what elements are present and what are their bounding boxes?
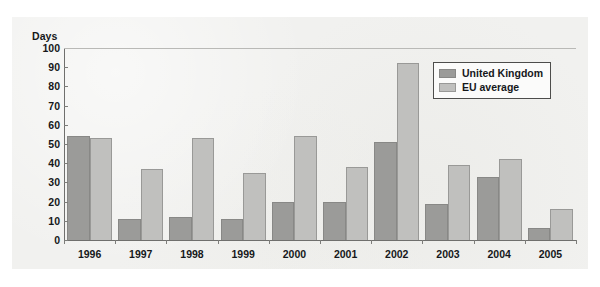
bar-uk-2003[interactable] <box>425 204 448 240</box>
x-axis-tickmark-origin <box>64 240 65 244</box>
y-axis-tick-100: 100 <box>42 42 60 54</box>
bar-eu-2004[interactable] <box>499 159 522 240</box>
x-axis-tickmark-2001 <box>371 240 372 244</box>
y-axis-tick-10: 10 <box>48 215 60 227</box>
y-axis-tickmark-80 <box>64 86 68 87</box>
y-axis-tickmark-70 <box>64 106 68 107</box>
x-axis-tickmark-1996 <box>115 240 116 244</box>
x-axis-tickmark-2002 <box>422 240 423 244</box>
bar-group-1999 <box>218 48 269 240</box>
bar-eu-2000[interactable] <box>294 136 317 240</box>
legend-label-eu-average: EU average <box>462 81 519 93</box>
x-axis-tick-2002: 2002 <box>371 248 422 260</box>
chart-legend: United Kingdom EU average <box>433 62 551 99</box>
y-axis-tick-80: 80 <box>48 80 60 92</box>
bar-eu-1996[interactable] <box>90 138 113 240</box>
y-axis-tick-60: 60 <box>48 119 60 131</box>
bar-eu-1997[interactable] <box>141 169 164 240</box>
y-axis-tickmark-40 <box>64 163 68 164</box>
y-axis-tickmark-20 <box>64 202 68 203</box>
y-axis-tick-70: 70 <box>48 100 60 112</box>
bar-group-1998 <box>166 48 217 240</box>
y-axis-tickmark-10 <box>64 221 68 222</box>
bar-group-2000 <box>269 48 320 240</box>
y-axis-tickmark-50 <box>64 144 68 145</box>
legend-item-eu-average[interactable]: EU average <box>439 80 543 94</box>
x-axis-tick-2005: 2005 <box>525 248 576 260</box>
y-axis-tickmark-90 <box>64 67 68 68</box>
y-axis-tick-40: 40 <box>48 157 60 169</box>
x-axis-tick-2004: 2004 <box>474 248 525 260</box>
y-axis-tick-30: 30 <box>48 176 60 188</box>
x-axis-tick-1997: 1997 <box>115 248 166 260</box>
bar-group-2001 <box>320 48 371 240</box>
bar-eu-2003[interactable] <box>448 165 471 240</box>
x-axis-tick-1999: 1999 <box>218 248 269 260</box>
bar-group-1996 <box>64 48 115 240</box>
x-axis-tickmark-1998 <box>218 240 219 244</box>
x-axis-tick-2003: 2003 <box>422 248 473 260</box>
bar-eu-2002[interactable] <box>397 63 420 240</box>
y-axis-tick-labels: 0102030405060708090100 <box>12 17 60 269</box>
bar-uk-2005[interactable] <box>528 228 551 240</box>
x-axis-tickmark-2000 <box>320 240 321 244</box>
bar-uk-1998[interactable] <box>169 217 192 240</box>
bar-uk-2004[interactable] <box>477 177 500 240</box>
bar-uk-2002[interactable] <box>374 142 397 240</box>
y-axis-tick-20: 20 <box>48 196 60 208</box>
bar-eu-2005[interactable] <box>550 209 573 240</box>
legend-swatch-icon-eu-average <box>439 83 456 92</box>
x-axis-tickmark-1997 <box>166 240 167 244</box>
x-axis-tick-2001: 2001 <box>320 248 371 260</box>
legend-swatch-icon-united-kingdom <box>439 69 456 78</box>
bar-eu-1999[interactable] <box>243 173 266 240</box>
x-axis-tickmark-2005 <box>576 240 577 244</box>
y-axis-tick-50: 50 <box>48 138 60 150</box>
bar-uk-1996[interactable] <box>67 136 90 240</box>
x-axis-tick-1998: 1998 <box>166 248 217 260</box>
x-axis-tick-1996: 1996 <box>64 248 115 260</box>
bar-uk-2001[interactable] <box>323 202 346 240</box>
bar-eu-1998[interactable] <box>192 138 215 240</box>
x-axis-tickmark-2003 <box>474 240 475 244</box>
bar-group-2002 <box>371 48 422 240</box>
x-axis-tick-2000: 2000 <box>269 248 320 260</box>
legend-label-united-kingdom: United Kingdom <box>462 67 543 79</box>
legend-item-united-kingdom[interactable]: United Kingdom <box>439 66 543 80</box>
y-axis-tickmark-60 <box>64 125 68 126</box>
y-axis-tick-90: 90 <box>48 61 60 73</box>
bar-uk-1997[interactable] <box>118 219 141 240</box>
bar-uk-1999[interactable] <box>221 219 244 240</box>
bar-chart: Days 0102030405060708090100 199619971998… <box>12 17 588 269</box>
y-axis-tickmark-30 <box>64 182 68 183</box>
x-axis-tickmark-2004 <box>525 240 526 244</box>
bar-uk-2000[interactable] <box>272 202 295 240</box>
x-axis-tickmark-1999 <box>269 240 270 244</box>
bar-group-1997 <box>115 48 166 240</box>
bar-eu-2001[interactable] <box>346 167 369 240</box>
y-axis-tick-0: 0 <box>54 234 60 246</box>
